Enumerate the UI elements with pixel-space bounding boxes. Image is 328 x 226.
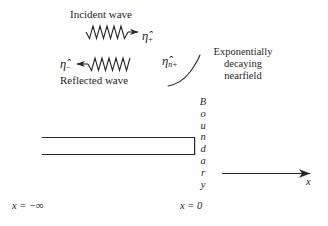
nearfield-label-line-1: Exponentially bbox=[202, 46, 284, 58]
boundary-letter: r bbox=[196, 167, 210, 179]
nearfield-label-line-2: decaying bbox=[202, 58, 284, 70]
boundary-letter: a bbox=[196, 155, 210, 167]
boundary-letter: y bbox=[196, 179, 210, 191]
boundary-letter: u bbox=[196, 120, 210, 132]
incident-wave-label: Incident wave bbox=[70, 8, 132, 20]
eta-minus-subscript: − bbox=[66, 63, 71, 72]
wave-boundary-diagram: Incident wave Reflected wave Exponential… bbox=[0, 0, 328, 226]
nearfield-label: Exponentially decaying nearfield bbox=[202, 46, 284, 81]
diagram-vector-layer bbox=[0, 0, 328, 226]
boundary-letter: B bbox=[196, 96, 210, 108]
incident-wave-squiggle bbox=[86, 26, 138, 39]
eta-nearfield-symbol: η̂n+ bbox=[162, 54, 178, 69]
boundary-letter: o bbox=[196, 108, 210, 120]
boundary-vertical-label: B o u n d a r y bbox=[196, 96, 210, 190]
x-axis-label: x bbox=[306, 176, 311, 187]
channel-domain-outline bbox=[42, 137, 195, 155]
eta-plus-symbol: η̂+ bbox=[142, 29, 153, 44]
x-minus-infinity-label: x = −∞ bbox=[12, 200, 44, 211]
eta-minus-symbol: η̂− bbox=[60, 57, 71, 72]
boundary-letter: d bbox=[196, 143, 210, 155]
reflected-wave-squiggle bbox=[77, 58, 130, 71]
boundary-letter: n bbox=[196, 131, 210, 143]
x-zero-label: x = 0 bbox=[180, 200, 202, 211]
eta-nearfield-subscript: n+ bbox=[168, 60, 177, 69]
eta-plus-subscript: + bbox=[148, 35, 153, 44]
reflected-wave-label: Reflected wave bbox=[60, 74, 128, 86]
nearfield-label-line-3: nearfield bbox=[202, 70, 284, 82]
